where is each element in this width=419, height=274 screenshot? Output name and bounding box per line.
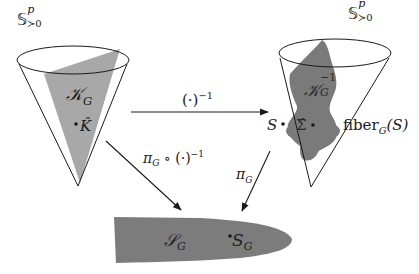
set-sg-label: 𝒮G [164,232,186,252]
bottom-region-sg [114,217,292,263]
right-region-kg-inverse [288,40,338,161]
projection-label: πG [236,167,252,185]
point-sg-label: SG [232,232,252,252]
k-hat-label: K̂ [80,119,91,134]
left-region-kg [44,49,120,183]
s-label: S [267,118,277,133]
right-space-label: 𝕊p≻0 [348,6,358,22]
point-sigma-hat [311,123,315,127]
inverse-arrow-label: (·)−1 [182,91,213,108]
left-space-label: 𝕊p≻0 [17,12,27,28]
point-k-hat [74,122,78,126]
right-cone-rim [279,39,391,67]
sigma-hat-label: Σ̂ [296,118,307,133]
point-s [281,122,285,126]
left-region-label: 𝒦G [66,85,92,107]
right-region-label: 𝒦−1G [304,82,320,99]
diagram-canvas [0,0,419,274]
projection-of-inverse-label: πG ∘ (·)−1 [143,150,204,169]
fiber-label: fiberG(S) [343,118,408,136]
right-cone [279,39,391,187]
left-cone [17,46,129,186]
